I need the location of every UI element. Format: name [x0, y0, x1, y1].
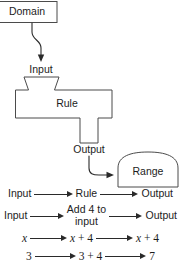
- equation-rows: Input Rule Output Input Add 4 to input O…: [0, 186, 181, 265]
- row-numeric: 3 3 + 4 7: [0, 247, 181, 265]
- function-machine-figure: Domain Input Rule Output Range Input Rul…: [0, 0, 181, 265]
- row-variable-middle: x + 4: [70, 232, 93, 244]
- row-words-arrow-2: [109, 212, 143, 221]
- row-words-arrow-1: [30, 212, 64, 221]
- row-generic: Input Rule Output: [0, 186, 181, 202]
- row-words-right: Output: [145, 210, 177, 221]
- domain-to-input-arrowhead: [38, 55, 44, 63]
- row-numeric-left: 3: [26, 250, 32, 262]
- row-variable: x x + 4 x + 4: [0, 230, 181, 247]
- row-generic-arrow-1: [34, 190, 72, 199]
- row-generic-left: Input: [8, 188, 31, 199]
- domain-box-label: Domain: [9, 5, 45, 17]
- row-generic-arrow-2: [100, 190, 138, 199]
- row-variable-left-var: x: [22, 232, 27, 244]
- row-numeric-arrow-1: [35, 252, 76, 261]
- row-words-middle: Add 4 to input: [67, 204, 106, 228]
- input-label: Input: [29, 63, 52, 75]
- row-numeric-right: 7: [149, 250, 155, 262]
- rule-machine-label: Rule: [56, 97, 78, 109]
- row-words: Input Add 4 to input Output: [0, 202, 181, 230]
- row-variable-arrow-1: [30, 234, 67, 243]
- row-numeric-middle: 3 + 4: [79, 250, 103, 262]
- output-to-range-connector: [89, 156, 108, 175]
- row-generic-middle: Rule: [76, 188, 98, 199]
- domain-to-input-connector: [32, 23, 41, 56]
- output-to-range-arrowhead: [107, 172, 115, 178]
- row-variable-left: x: [22, 232, 27, 244]
- row-numeric-arrow-2: [105, 252, 146, 261]
- row-variable-right-rest: + 4: [141, 232, 159, 244]
- row-variable-middle-rest: + 4: [75, 232, 93, 244]
- row-variable-right: x + 4: [136, 232, 159, 244]
- row-words-middle-line2: input: [75, 216, 98, 228]
- range-label: Range: [133, 165, 164, 177]
- row-variable-arrow-2: [96, 234, 133, 243]
- rule-machine-shape: [16, 77, 113, 143]
- output-label: Output: [73, 143, 105, 155]
- function-machine-diagram: Domain Input Rule Output Range: [0, 0, 181, 190]
- row-words-left: Input: [4, 210, 27, 221]
- row-generic-right: Output: [141, 188, 173, 199]
